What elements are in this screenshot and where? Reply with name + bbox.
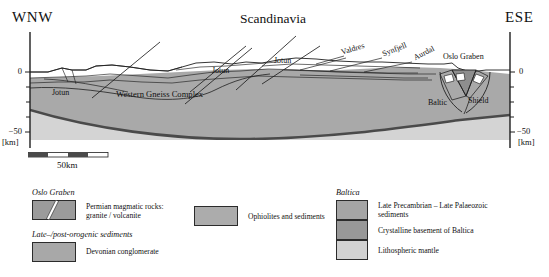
axis-right-tick-0: 0 (519, 66, 533, 76)
axis-left-tick-0: 0 (8, 66, 22, 76)
legend-header-oslo-graben: Oslo Graben (32, 188, 75, 197)
axis-right-tick-minus50: −50 (517, 126, 541, 136)
section-label-jotun-west: Jotun (52, 88, 69, 97)
axis-right (510, 32, 515, 148)
legend-swatch-lithospheric-mantle (336, 240, 368, 260)
legend-label-devonian-conglomerate: Devonian conglomerate (86, 247, 236, 256)
section-label-oslo-graben: Oslo Graben (443, 52, 484, 61)
legend-swatch-ophiolites (194, 206, 238, 226)
legend-label-lithospheric-mantle: Lithospheric mantle (378, 246, 548, 255)
section-label-western-gneiss-complex: Western Gneiss Complex (116, 89, 203, 99)
axis-right-unit: [km] (518, 137, 535, 147)
section-label-shield: Shield (468, 96, 488, 105)
legend-label-late-precambrian-sediments: Late Precambrian – Late Palaeozoic sedim… (378, 201, 548, 220)
scale-bar (28, 152, 138, 162)
section-label-baltic: Baltic (428, 98, 447, 107)
axis-left-unit: [km] (2, 137, 19, 147)
legend-swatch-permian-magmatic (32, 200, 76, 224)
figure-root: WNW Scandinavia ESE (0, 0, 549, 277)
axis-left-tick-minus50: −50 (2, 126, 22, 136)
legend-header-late-post-orogenic: Late–/post-orogenic sediments (32, 230, 132, 239)
legend-header-baltica: Baltica (336, 188, 360, 197)
legend-swatch-devonian-conglomerate (32, 242, 76, 262)
section-label-jotun-mid: Jotun (212, 66, 229, 75)
cross-section-drawing (0, 0, 549, 165)
legend-label-crystalline-basement: Crystalline basement of Baltica (378, 226, 548, 235)
legend: Oslo Graben Permian magmatic rocks: gran… (0, 184, 549, 277)
section-label-jotun-east: Jotun (274, 56, 291, 65)
scale-bar-label: 50km (57, 160, 78, 170)
legend-swatch-late-precambrian-sediments (336, 200, 368, 220)
legend-swatch-crystalline-basement (336, 220, 368, 240)
axis-left (25, 32, 30, 148)
